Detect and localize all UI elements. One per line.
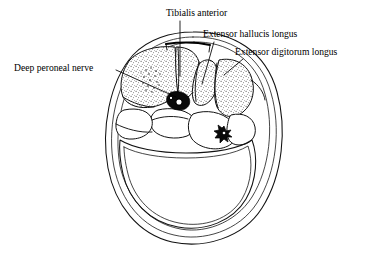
label-deep-peroneal-nerve: Deep peroneal nerve (14, 62, 93, 73)
anatomical-cross-section-figure: Deep peroneal nerve Tibialis anterior Ex… (0, 0, 387, 255)
extensor-digitorum-longus-muscle (215, 59, 254, 116)
label-extensor-hallucis-longus: Extensor hallucis longus (203, 28, 298, 39)
deep-posterior-muscles (116, 109, 255, 149)
label-extensor-digitorum-longus: Extensor digitorum longus (235, 46, 338, 57)
label-tibialis-anterior: Tibialis anterior (166, 7, 228, 18)
